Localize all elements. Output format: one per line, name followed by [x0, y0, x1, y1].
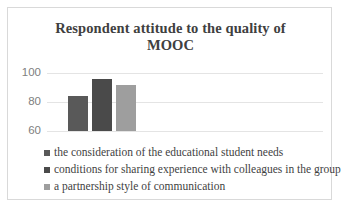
legend-item-2: conditions for sharing experience with c…: [44, 161, 329, 178]
bar-group: [47, 65, 323, 135]
legend-label-3: a partnership style of communication: [54, 181, 225, 193]
chart-title-line-2: MOOC: [8, 37, 333, 54]
bar-series-2: [92, 79, 112, 131]
plot-area: 100 80 60: [47, 65, 323, 135]
legend-swatch-3: [44, 184, 50, 190]
y-axis-tick-60: 60: [11, 125, 41, 137]
chart-frame: Respondent attitude to the quality of MO…: [7, 7, 332, 200]
y-axis-tick-100: 100: [11, 67, 41, 79]
chart-legend: the consideration of the educational stu…: [44, 144, 329, 195]
bar-series-1: [68, 96, 88, 131]
bar-series-3: [116, 85, 136, 131]
legend-item-1: the consideration of the educational stu…: [44, 144, 329, 161]
chart-title: Respondent attitude to the quality of MO…: [8, 20, 333, 54]
legend-swatch-2: [44, 167, 50, 173]
legend-label-2: conditions for sharing experience with c…: [54, 164, 341, 176]
legend-swatch-1: [44, 150, 50, 156]
legend-item-3: a partnership style of communication: [44, 178, 329, 195]
legend-label-1: the consideration of the educational stu…: [54, 147, 283, 159]
chart-title-line-1: Respondent attitude to the quality of: [8, 20, 333, 37]
y-axis-tick-80: 80: [11, 96, 41, 108]
